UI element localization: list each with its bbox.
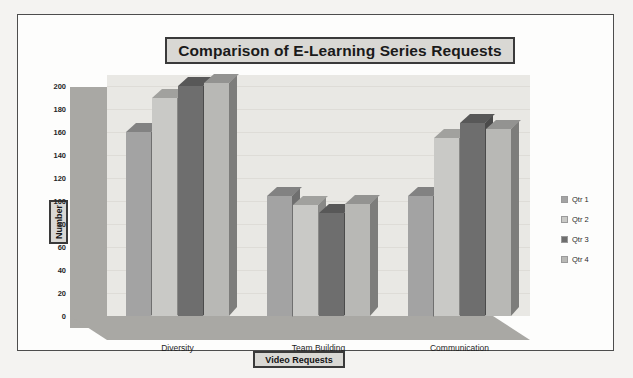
bar	[204, 83, 229, 316]
y-axis-tick-label: 0	[62, 312, 66, 321]
y-axis-tick-label: 140	[53, 151, 66, 160]
bar-face	[408, 196, 433, 317]
bar	[460, 123, 485, 316]
bar-face	[345, 204, 370, 316]
plot-floor	[70, 316, 530, 340]
chart-legend: Qtr 1Qtr 2Qtr 3Qtr 4	[561, 191, 619, 271]
y-axis-tick-label: 120	[53, 174, 66, 183]
bar	[178, 86, 203, 316]
bar	[126, 132, 151, 316]
y-axis-tick-label: 40	[58, 266, 66, 275]
bar	[152, 98, 177, 316]
legend-label: Qtr 2	[572, 215, 589, 224]
legend-item: Qtr 3	[561, 231, 619, 247]
bar-group	[408, 75, 511, 316]
bar	[408, 196, 433, 317]
legend-item: Qtr 4	[561, 251, 619, 267]
y-axis-tick-label: 160	[53, 128, 66, 137]
y-axis-tick-label: 80	[58, 220, 66, 229]
legend-swatch	[561, 216, 568, 223]
bar-side	[229, 74, 237, 316]
y-axis-tick-label: 100	[53, 197, 66, 206]
legend-item: Qtr 2	[561, 211, 619, 227]
bar-face	[126, 132, 151, 316]
plot-side-wall	[70, 87, 107, 328]
y-axis-tick-label: 60	[58, 243, 66, 252]
legend-label: Qtr 1	[572, 195, 589, 204]
chart-figure-frame: Comparison of E-Learning Series Requests…	[17, 14, 614, 351]
legend-label: Qtr 3	[572, 235, 589, 244]
x-axis-category-label: Diversity	[161, 343, 194, 353]
bar-face	[178, 86, 203, 316]
legend-item: Qtr 1	[561, 191, 619, 207]
bar	[486, 129, 511, 316]
bar	[319, 213, 344, 316]
x-axis-category-label: Communication	[430, 343, 489, 353]
plot-area: 020406080100120140160180200 DiversityTea…	[70, 75, 530, 337]
bar	[293, 205, 318, 316]
legend-swatch	[561, 236, 568, 243]
y-axis-ticks: 020406080100120140160180200	[36, 75, 70, 316]
chart-title: Comparison of E-Learning Series Requests	[165, 37, 515, 64]
y-axis-tick-label: 180	[53, 105, 66, 114]
scanned-page: Comparison of E-Learning Series Requests…	[0, 0, 633, 378]
bar-face	[267, 196, 292, 317]
bar-face	[486, 129, 511, 316]
y-axis-tick-label: 200	[53, 82, 66, 91]
bar-face	[434, 138, 459, 316]
bar-face	[460, 123, 485, 316]
bar-side	[511, 120, 519, 316]
bar-group	[126, 75, 229, 316]
bar-face	[293, 205, 318, 316]
bar-side	[370, 195, 378, 316]
bar	[267, 196, 292, 317]
legend-swatch	[561, 256, 568, 263]
bar	[434, 138, 459, 316]
bars-layer	[107, 75, 530, 316]
bar	[345, 204, 370, 316]
bar-face	[319, 213, 344, 316]
bar-group	[267, 75, 370, 316]
legend-swatch	[561, 196, 568, 203]
x-axis-title: Video Requests	[253, 351, 345, 368]
y-axis-tick-label: 20	[58, 289, 66, 298]
bar-face	[204, 83, 229, 316]
bar-face	[152, 98, 177, 316]
legend-label: Qtr 4	[572, 255, 589, 264]
